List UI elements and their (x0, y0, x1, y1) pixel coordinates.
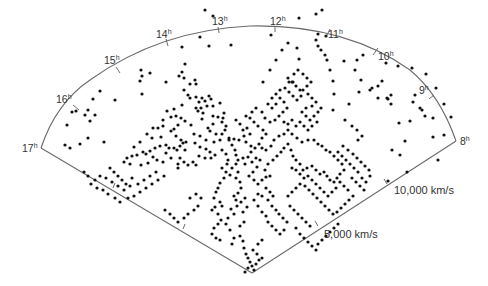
galaxy-point (175, 148, 178, 151)
galaxy-point (306, 240, 309, 243)
galaxy-point (186, 212, 189, 215)
galaxy-point (266, 162, 269, 165)
galaxy-point (258, 158, 261, 161)
galaxy-point (249, 150, 252, 153)
galaxy-point (336, 158, 339, 161)
galaxy-point (118, 200, 121, 203)
galaxy-point (282, 132, 285, 135)
galaxy-point (65, 123, 68, 126)
galaxy-point (238, 234, 241, 237)
galaxy-point (180, 103, 183, 106)
galaxy-point (320, 8, 323, 11)
galaxy-point (222, 111, 225, 114)
galaxy-point (216, 186, 219, 189)
galaxy-point (140, 74, 143, 77)
galaxy-point (98, 174, 101, 177)
galaxy-point (252, 120, 255, 123)
galaxy-point (161, 124, 164, 127)
galaxy-point (214, 190, 217, 193)
galaxy-point (314, 12, 317, 15)
galaxy-point (178, 144, 181, 147)
galaxy-point (194, 163, 197, 166)
galaxy-point (191, 160, 194, 163)
galaxy-point (418, 106, 421, 109)
galaxy-point (351, 194, 354, 197)
galaxy-point (300, 216, 303, 219)
galaxy-point (130, 176, 133, 179)
galaxy-point (204, 138, 207, 141)
galaxy-point (260, 210, 263, 213)
galaxy-point (264, 214, 267, 217)
galaxy-point (266, 198, 269, 201)
galaxy-point (287, 90, 290, 93)
galaxy-point (211, 122, 214, 125)
galaxy-point (295, 46, 298, 49)
galaxy-point (304, 106, 307, 109)
ra-label-11: 11h (328, 28, 343, 40)
galaxy-point (331, 212, 334, 215)
galaxy-point (234, 153, 237, 156)
galaxy-point (277, 114, 280, 117)
galaxy-point (362, 188, 365, 191)
galaxy-point (257, 258, 260, 261)
galaxy-point (256, 242, 259, 245)
galaxy-point (302, 176, 305, 179)
galaxy-point (232, 236, 235, 239)
galaxy-point (182, 216, 185, 219)
galaxy-point (228, 173, 231, 176)
galaxy-point (116, 184, 119, 187)
galaxy-point (223, 128, 226, 131)
galaxy-point (305, 166, 308, 169)
galaxy-point (226, 216, 229, 219)
galaxy-point (234, 198, 237, 201)
galaxy-point (174, 114, 177, 117)
galaxy-point (336, 222, 339, 225)
galaxy-point (130, 154, 133, 157)
galaxy-point (218, 138, 221, 141)
galaxy-point (343, 202, 346, 205)
galaxy-point (367, 168, 370, 171)
galaxy-point (315, 120, 318, 123)
ra-label-9: 9h (419, 84, 429, 96)
galaxy-point (290, 118, 293, 121)
galaxy-point (282, 146, 285, 149)
galaxy-point (180, 70, 183, 73)
galaxy-point (248, 260, 251, 263)
galaxy-point (196, 109, 199, 112)
galaxy-point (246, 266, 249, 269)
galaxy-point (91, 97, 94, 100)
galaxy-point (355, 156, 358, 159)
galaxy-point (274, 228, 277, 231)
galaxy-point (194, 106, 197, 109)
galaxy-point (310, 178, 313, 181)
galaxy-point (196, 204, 199, 207)
galaxy-point (274, 102, 277, 105)
galaxy-point (138, 79, 141, 82)
galaxy-point (239, 186, 242, 189)
galaxy-point (403, 139, 406, 142)
galaxy-point (319, 200, 322, 203)
galaxy-point (442, 102, 445, 105)
galaxy-point (132, 145, 135, 148)
galaxy-point (282, 228, 285, 231)
galaxy-point (212, 140, 215, 143)
galaxy-point (306, 138, 309, 141)
galaxy-point (212, 196, 215, 199)
galaxy-point (183, 148, 186, 151)
galaxy-point (316, 44, 319, 47)
galaxy-point (218, 238, 221, 241)
galaxy-point (74, 109, 77, 112)
galaxy-point (408, 119, 411, 122)
galaxy-point (156, 178, 159, 181)
galaxy-point (268, 68, 271, 71)
galaxy-point (308, 118, 311, 121)
galaxy-point (312, 138, 315, 141)
galaxy-point (344, 158, 347, 161)
galaxy-point (163, 208, 166, 211)
galaxy-point (302, 236, 305, 239)
galaxy-point (356, 138, 359, 141)
galaxy-point (206, 126, 209, 129)
galaxy-point (230, 143, 233, 146)
galaxy-point (145, 132, 148, 135)
galaxy-point (308, 224, 311, 227)
